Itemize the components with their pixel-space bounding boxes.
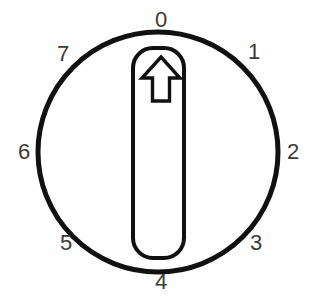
dial-label-3[interactable]: 3 — [243, 232, 269, 254]
dial-label-0[interactable]: 0 — [148, 9, 174, 31]
dial-label-4[interactable]: 4 — [148, 271, 174, 293]
dial-label-5[interactable]: 5 — [53, 232, 79, 254]
dial-label-7[interactable]: 7 — [50, 43, 76, 65]
dial-label-1[interactable]: 1 — [241, 41, 267, 63]
rotary-knob-widget[interactable]: 0 1 2 3 4 5 6 7 — [0, 0, 310, 300]
dial-label-6[interactable]: 6 — [11, 141, 37, 163]
dial-label-2[interactable]: 2 — [280, 141, 306, 163]
